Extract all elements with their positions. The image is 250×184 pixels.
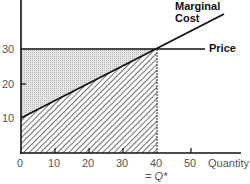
x-axis-label: Quantity <box>208 158 249 169</box>
x-tick-label-10: 10 <box>48 158 60 169</box>
mc-label-line2: Cost <box>175 13 199 24</box>
y-tick-label-30: 30 <box>2 44 14 55</box>
x-tick-label-30: 30 <box>116 158 128 169</box>
y-tick-label-10: 10 <box>2 113 14 124</box>
x-tick-label-50: 50 <box>184 158 196 169</box>
x-tick-label-20: 20 <box>82 158 94 169</box>
x-tick-label-0: 0 <box>17 158 23 169</box>
qstar-label: = Q* <box>145 171 167 182</box>
price-label: Price <box>209 43 236 54</box>
x-tick-label-40: 40 <box>150 158 162 169</box>
y-tick-label-20: 20 <box>2 79 14 90</box>
mc-label-line1: Marginal <box>175 1 220 12</box>
